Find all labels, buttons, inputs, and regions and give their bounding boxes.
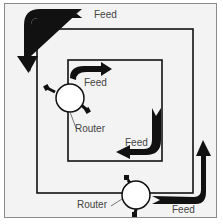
- inner-ring: [68, 60, 162, 161]
- feed-label-outer-top: Feed: [94, 10, 117, 20]
- feed-arrow-inner-bottom: [116, 108, 161, 159]
- feed-label-outer-bottom: Feed: [172, 205, 195, 215]
- feed-arrow-outer-top: [17, 9, 82, 73]
- outer-ring: [37, 29, 193, 193]
- network-diagram: [0, 0, 223, 224]
- router-outer: [111, 175, 150, 217]
- feed-label-inner-top: Feed: [84, 78, 107, 88]
- feed-label-inner-bottom: Feed: [125, 138, 148, 148]
- router-label-outer: Router: [77, 200, 107, 210]
- router-inner: [43, 84, 91, 128]
- feed-arrow-outer-bottom: [152, 140, 211, 204]
- router-label-inner: Router: [75, 124, 105, 134]
